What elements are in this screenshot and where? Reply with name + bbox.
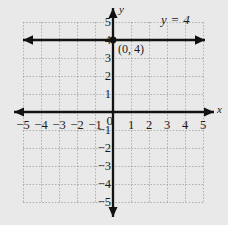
y-tick-5: 5	[95, 16, 111, 29]
y-tick--5: −5	[95, 196, 111, 209]
x-tick-4: 4	[176, 119, 194, 132]
y-tick--4: −4	[95, 178, 111, 191]
x-tick--5: −5	[14, 119, 32, 132]
y-tick--2: −2	[95, 142, 111, 155]
y-tick--3: −3	[95, 160, 111, 173]
graph-figure: y x y = 4 (0, 4) −5−4−3−2−1012345 −5−4−3…	[0, 0, 228, 225]
x-tick--4: −4	[32, 119, 50, 132]
y-tick--1: −1	[95, 124, 111, 137]
y-tick-2: 2	[95, 70, 111, 83]
x-axis-label: x	[217, 104, 222, 115]
axes-and-plot-overlay	[0, 0, 228, 225]
x-tick-5: 5	[194, 119, 212, 132]
x-tick-1: 1	[122, 119, 140, 132]
x-tick--2: −2	[68, 119, 86, 132]
y-tick-1: 1	[95, 88, 111, 101]
equation-label: y = 4	[161, 13, 190, 26]
y-tick-4: 4	[95, 34, 111, 47]
y-tick-3: 3	[95, 52, 111, 65]
x-tick-3: 3	[158, 119, 176, 132]
point-coordinate-label: (0, 4)	[118, 43, 144, 55]
y-axis-label: y	[119, 4, 124, 15]
x-tick-2: 2	[140, 119, 158, 132]
x-tick--3: −3	[50, 119, 68, 132]
